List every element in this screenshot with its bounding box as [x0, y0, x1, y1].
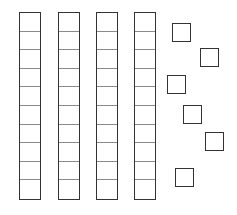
rod-cell: [135, 87, 155, 106]
rod-cell: [59, 13, 79, 32]
rod-cell: [20, 162, 40, 181]
ten-rod-4: [134, 12, 156, 200]
unit-cube-5: [205, 132, 224, 151]
rod-cell: [20, 143, 40, 162]
rod-cell: [20, 87, 40, 106]
ten-rod-1: [19, 12, 41, 200]
unit-cube-3: [167, 75, 186, 94]
unit-cube-6: [175, 168, 194, 187]
rod-cell: [59, 69, 79, 88]
rod-cell: [97, 32, 117, 51]
rod-cell: [135, 50, 155, 69]
unit-cube-2: [200, 48, 219, 67]
rod-cell: [135, 69, 155, 88]
rod-cell: [20, 13, 40, 32]
rod-cell: [20, 50, 40, 69]
ten-rod-2: [58, 12, 80, 200]
rod-cell: [97, 180, 117, 199]
rod-cell: [59, 50, 79, 69]
rod-cell: [59, 143, 79, 162]
unit-cube-1: [172, 23, 191, 42]
rod-cell: [59, 106, 79, 125]
rod-cell: [59, 125, 79, 144]
rod-cell: [97, 143, 117, 162]
rod-cell: [135, 125, 155, 144]
rod-cell: [97, 106, 117, 125]
rod-cell: [97, 69, 117, 88]
ten-rod-3: [96, 12, 118, 200]
rod-cell: [135, 106, 155, 125]
rod-cell: [59, 180, 79, 199]
rod-cell: [20, 106, 40, 125]
rod-cell: [135, 180, 155, 199]
rod-cell: [20, 69, 40, 88]
rod-cell: [20, 32, 40, 51]
rod-cell: [135, 162, 155, 181]
unit-cube-4: [183, 105, 202, 124]
rod-cell: [59, 87, 79, 106]
rod-cell: [97, 125, 117, 144]
rod-cell: [135, 32, 155, 51]
rod-cell: [97, 87, 117, 106]
rod-cell: [20, 125, 40, 144]
rod-cell: [20, 180, 40, 199]
rod-cell: [97, 162, 117, 181]
rod-cell: [135, 13, 155, 32]
rod-cell: [97, 13, 117, 32]
rod-cell: [59, 32, 79, 51]
rod-cell: [59, 162, 79, 181]
rod-cell: [97, 50, 117, 69]
rod-cell: [135, 143, 155, 162]
